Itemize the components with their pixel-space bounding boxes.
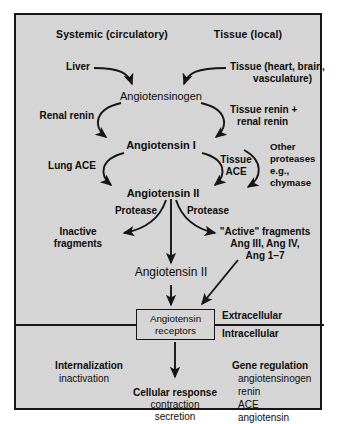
arrow-active-fragments-to-receptors bbox=[202, 260, 238, 304]
product-active-line1: "Active" fragments bbox=[220, 226, 311, 237]
label-tissue-ace-line1: Tissue bbox=[220, 154, 252, 165]
source-tissue-line1: Tissue (heart, brain, bbox=[230, 61, 325, 72]
source-tissue-line2: vasculature) bbox=[253, 73, 312, 84]
arrow-angiotensinogen-to-ang1-right bbox=[201, 103, 224, 137]
product-active-line3: Ang 1–7 bbox=[246, 250, 285, 261]
label-other-proteases-line2: proteases bbox=[270, 154, 315, 165]
label-tissue-ace-line2: ACE bbox=[225, 166, 246, 177]
header-tissue: Tissue (local) bbox=[214, 29, 282, 41]
angiotensin-receptors-box: Angiotensin receptors bbox=[136, 309, 215, 340]
label-protease-right: Protease bbox=[187, 205, 229, 216]
effect-internalization-title: Internalization bbox=[55, 360, 123, 371]
effect-cellular-response-title: Cellular response bbox=[133, 387, 217, 398]
label-tissue-renin-line2: renal renin bbox=[237, 116, 288, 127]
gene-item-0: angiotensinogen bbox=[238, 373, 311, 384]
gene-item-2: ACE bbox=[238, 399, 259, 410]
node-angiotensinogen: Angiotensinogen bbox=[120, 90, 202, 102]
label-intracellular: Intracellular bbox=[222, 328, 279, 339]
effect-cellular-response-sub1: contraction bbox=[151, 399, 200, 410]
node-angiotensin-1: Angiotensin I bbox=[126, 139, 196, 151]
diagram-figure: Systemic (circulatory) Tissue (local) Li… bbox=[14, 13, 322, 410]
label-protease-left: Protease bbox=[115, 205, 157, 216]
header-systemic: Systemic (circulatory) bbox=[56, 29, 168, 41]
label-other-proteases-line4: chymase bbox=[270, 178, 311, 189]
gene-item-1: renin bbox=[238, 386, 260, 397]
receptor-label-line2: receptors bbox=[155, 325, 196, 336]
node-angiotensin-2: Angiotensin II bbox=[127, 187, 200, 199]
label-extracellular: Extracellular bbox=[222, 310, 282, 321]
node-angiotensin-2-pool: Angiotensin II bbox=[135, 266, 208, 279]
product-active-line2: Ang III, Ang IV, bbox=[230, 238, 299, 249]
arrow-tissue-to-angiotensinogen bbox=[184, 68, 226, 84]
arrow-ang1-to-ang2-left bbox=[103, 153, 124, 185]
effect-cellular-response-sub2: secretion bbox=[155, 411, 196, 422]
label-lung-ace: Lung ACE bbox=[48, 160, 96, 171]
label-renal-renin: Renal renin bbox=[40, 110, 94, 121]
source-liver: Liver bbox=[66, 61, 90, 72]
gene-item-3: angiotensin bbox=[238, 412, 289, 423]
effect-internalization-sub: inactivation bbox=[59, 373, 109, 384]
label-tissue-renin-line1: Tissue renin + bbox=[230, 104, 297, 115]
arrow-angiotensinogen-to-ang1-left bbox=[98, 103, 121, 137]
receptor-label-line1: Angiotensin bbox=[150, 313, 201, 324]
product-inactive-line1: Inactive bbox=[59, 226, 96, 237]
label-other-proteases-line1: Other bbox=[270, 142, 296, 153]
product-inactive-line2: fragments bbox=[54, 238, 102, 249]
arrow-liver-to-angiotensinogen bbox=[94, 68, 132, 84]
label-other-proteases-line3: e.g., bbox=[270, 166, 289, 177]
effect-gene-regulation-title: Gene regulation bbox=[232, 360, 308, 371]
